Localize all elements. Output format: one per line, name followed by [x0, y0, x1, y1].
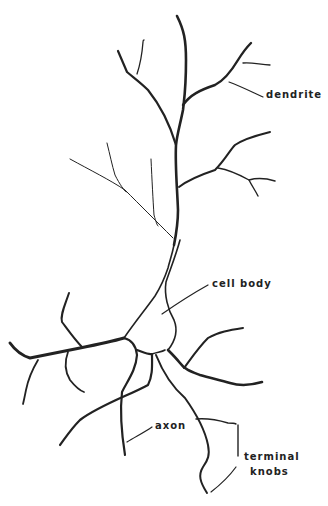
- label-terminal: terminal: [244, 451, 300, 463]
- cell-body-leader-line: [162, 285, 208, 314]
- basal-dendrites-left: [10, 293, 124, 404]
- apical-dendrite-trunk: [124, 16, 186, 350]
- label-knobs: knobs: [250, 466, 289, 478]
- dendrite-leader-line: [229, 82, 263, 97]
- label-dendrite: dendrite: [266, 89, 322, 101]
- upper-right-dendrites: [183, 43, 270, 105]
- neuron-diagram: dendrite cell body axon terminal knobs: [0, 0, 328, 506]
- label-axon: axon: [155, 420, 186, 432]
- upper-left-dendrites: [118, 40, 176, 145]
- axon-leader-line: [127, 427, 152, 442]
- basal-dendrites-right: [168, 328, 262, 385]
- basal-dendrites-center: [60, 338, 165, 455]
- mid-right-dendrites: [179, 132, 275, 196]
- label-cell-body: cell body: [212, 278, 272, 290]
- left-fine-dendrites: [70, 143, 173, 238]
- terminal-knobs-leader-line: [211, 467, 236, 492]
